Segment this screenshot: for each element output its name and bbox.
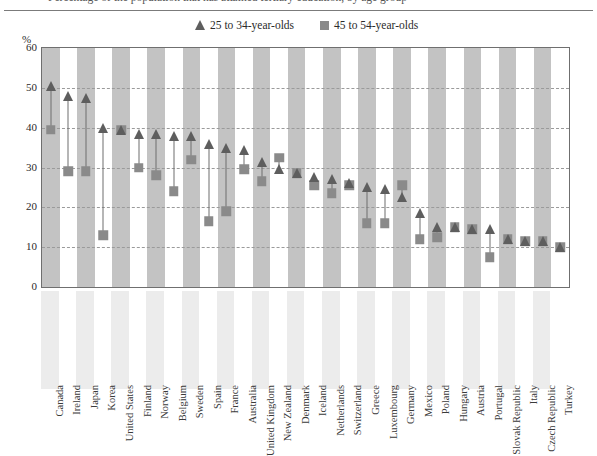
x-axis-tick-label: New Zealand xyxy=(282,385,293,441)
label-band xyxy=(41,291,59,389)
square-marker xyxy=(397,181,407,191)
square-marker xyxy=(99,230,109,240)
x-axis-tick-label: Luxembourg xyxy=(388,385,399,439)
connector-line xyxy=(103,128,104,236)
data-point-column xyxy=(464,48,482,287)
data-point-column xyxy=(306,48,324,287)
x-axis-tick-label: Iceland xyxy=(317,385,328,416)
data-point-column xyxy=(253,48,271,287)
plot-area xyxy=(41,47,570,288)
data-point-column xyxy=(147,48,165,287)
x-axis-tick-label: Czech Republic xyxy=(546,385,557,452)
triangle-marker xyxy=(204,139,214,149)
label-band xyxy=(427,291,445,389)
label-band xyxy=(252,291,270,389)
square-marker xyxy=(415,234,425,244)
triangle-marker xyxy=(221,143,231,153)
x-axis-tick-label: United Kingdom xyxy=(265,385,276,456)
data-point-column xyxy=(551,48,569,287)
label-band xyxy=(111,291,129,389)
y-axis-tick-label: 50 xyxy=(3,82,37,93)
label-band xyxy=(533,291,551,389)
data-point-column xyxy=(60,48,78,287)
triangle-marker xyxy=(344,178,354,188)
x-axis-tick-label: France xyxy=(229,385,240,414)
square-marker xyxy=(64,167,74,177)
y-axis-tick-label: 20 xyxy=(3,201,37,212)
data-point-column xyxy=(235,48,253,287)
x-axis-tick-label: Austria xyxy=(475,385,486,416)
triangle-marker xyxy=(362,182,372,192)
data-point-column xyxy=(534,48,552,287)
triangle-marker xyxy=(116,125,126,135)
square-marker xyxy=(81,167,91,177)
data-point-column xyxy=(42,48,60,287)
data-point-column xyxy=(288,48,306,287)
data-point-column xyxy=(516,48,534,287)
triangle-marker xyxy=(81,93,91,103)
data-point-column xyxy=(112,48,130,287)
x-axis-tick-label: Australia xyxy=(247,385,258,424)
label-band xyxy=(287,291,305,389)
x-axis-tick-label: United States xyxy=(124,385,135,441)
triangle-marker xyxy=(432,222,442,232)
x-axis-tick-label: Finland xyxy=(142,385,153,417)
x-axis-tick-label: Ireland xyxy=(71,385,82,415)
triangle-marker xyxy=(467,224,477,234)
connector-line xyxy=(226,148,227,212)
triangle-marker xyxy=(309,172,319,182)
label-band xyxy=(392,291,410,389)
data-point-column xyxy=(270,48,288,287)
triangle-marker xyxy=(485,224,495,234)
data-point-column xyxy=(200,48,218,287)
square-marker xyxy=(327,189,337,199)
data-point-column xyxy=(428,48,446,287)
label-band xyxy=(357,291,375,389)
x-axis-tick-label: Portugal xyxy=(493,385,504,421)
figure-title: Percentage of the population that has at… xyxy=(48,0,528,5)
data-point-column xyxy=(323,48,341,287)
connector-line xyxy=(208,144,209,222)
x-axis-tick-label: Japan xyxy=(89,385,100,409)
x-axis-tick-label: Korea xyxy=(106,385,117,411)
square-marker xyxy=(222,207,232,217)
triangle-marker xyxy=(98,123,108,133)
triangle-marker xyxy=(397,192,407,202)
triangle-marker xyxy=(239,145,249,155)
label-band xyxy=(217,291,235,389)
x-axis-tick-label: Turkey xyxy=(563,385,574,415)
data-point-column xyxy=(358,48,376,287)
x-axis-tick-label: Germany xyxy=(405,385,416,424)
square-marker xyxy=(46,125,56,135)
square-marker xyxy=(239,165,249,175)
triangle-marker xyxy=(274,164,284,174)
label-band xyxy=(322,291,340,389)
data-point-column xyxy=(393,48,411,287)
data-point-column xyxy=(341,48,359,287)
data-point-column xyxy=(446,48,464,287)
y-axis-tick-label: 10 xyxy=(3,241,37,252)
connector-line xyxy=(50,86,51,130)
square-marker-icon xyxy=(320,21,329,30)
triangle-marker xyxy=(186,131,196,141)
x-axis-tick-label: Denmark xyxy=(300,385,311,424)
triangle-marker xyxy=(380,184,390,194)
title-divider-rule xyxy=(4,10,593,11)
x-axis-tick-label: Hungary xyxy=(458,385,469,422)
data-point-column xyxy=(481,48,499,287)
legend-item-25-34: 25 to 34-year-olds xyxy=(195,19,294,31)
square-marker xyxy=(432,232,442,242)
triangle-marker-icon xyxy=(195,20,205,30)
square-marker xyxy=(151,171,161,181)
legend-item-45-54: 45 to 54-year-olds xyxy=(320,19,418,31)
y-axis-tick-label: 60 xyxy=(3,42,37,53)
x-axis-tick-label: Italy xyxy=(528,385,539,404)
triangle-marker xyxy=(151,129,161,139)
x-axis-tick-label: Norway xyxy=(159,385,170,419)
triangle-marker xyxy=(63,91,73,101)
data-point-column xyxy=(183,48,201,287)
data-point-column xyxy=(130,48,148,287)
x-axis-tick-label: Mexico xyxy=(423,385,434,417)
data-point-column xyxy=(95,48,113,287)
y-axis-tick-label: 0 xyxy=(3,281,37,292)
